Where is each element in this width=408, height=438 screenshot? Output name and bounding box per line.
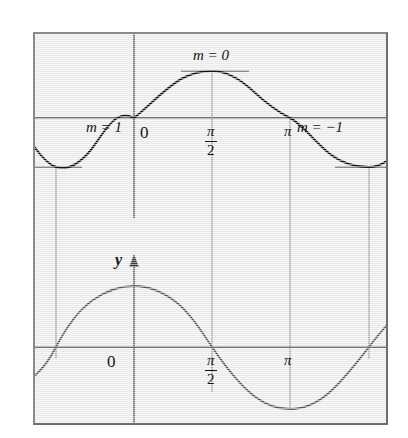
slope-label-m-equals-1: m = 1 xyxy=(86,120,122,135)
slope-label-m-equals-0-text: m = 0 xyxy=(193,47,229,63)
slope-label-m-equals-minus-1-text: m = −1 xyxy=(297,119,343,135)
bottom-tick-label-pi-over-2: π 2 xyxy=(205,353,217,388)
bottom-origin-label: 0 xyxy=(107,353,116,370)
fraction-numerator: π xyxy=(205,124,217,142)
slope-label-m-equals-minus-1: m = −1 xyxy=(297,120,343,135)
bottom-tick-label-pi: π xyxy=(284,353,292,368)
top-tick-label-pi-over-2: π 2 xyxy=(205,124,217,159)
plot-frame: m = 1 m = 0 m = −1 0 π 2 π y 0 π 2 xyxy=(33,32,388,425)
slope-label-m-equals-0: m = 0 xyxy=(193,48,229,63)
y-axis-arrow-icon xyxy=(129,254,139,267)
fraction-pi-over-2: π 2 xyxy=(205,124,217,159)
top-tick-label-pi: π xyxy=(284,124,292,139)
figure-root: m = 1 m = 0 m = −1 0 π 2 π y 0 π 2 xyxy=(0,0,408,438)
slope-label-m-equals-1-text: m = 1 xyxy=(86,119,122,135)
fraction-denominator: 2 xyxy=(205,142,217,159)
y-axis-label: y xyxy=(115,252,122,268)
fraction-denominator: 2 xyxy=(205,371,217,388)
top-origin-label: 0 xyxy=(140,124,149,141)
fraction-numerator: π xyxy=(205,353,217,371)
fraction-pi-over-2: π 2 xyxy=(205,353,217,388)
